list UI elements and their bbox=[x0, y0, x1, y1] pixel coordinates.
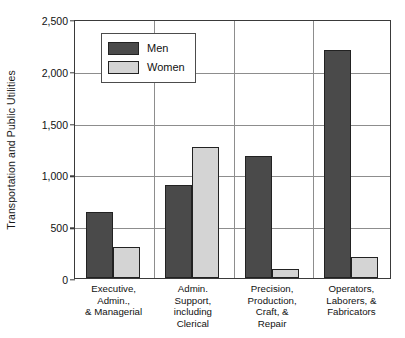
bar-men bbox=[245, 156, 272, 278]
x-axis-labels: Executive,Admin.,& ManagerialAdmin.Suppo… bbox=[74, 283, 391, 338]
x-axis-category-line: Production, bbox=[233, 295, 312, 307]
x-axis-category-line: & Managerial bbox=[74, 306, 153, 318]
x-axis-category-label: Admin.Support,includingClerical bbox=[153, 283, 232, 329]
x-axis-category-line: Operators, bbox=[312, 283, 391, 295]
legend-item-women: Women bbox=[108, 58, 185, 77]
y-axis-title-container: Transportation and Public Utilities bbox=[0, 0, 22, 300]
x-axis-category-line: Repair bbox=[233, 318, 312, 330]
legend-swatch-women-icon bbox=[108, 61, 139, 74]
x-axis-category-line: Laborers, & bbox=[312, 295, 391, 307]
bar-men bbox=[324, 50, 351, 278]
bar-women bbox=[272, 269, 299, 278]
x-axis-category-label: Executive,Admin.,& Managerial bbox=[74, 283, 153, 318]
bar-men bbox=[165, 185, 192, 278]
x-axis-category-line: including bbox=[153, 306, 232, 318]
x-axis-category-label: Operators,Laborers, &Fabricators bbox=[312, 283, 391, 318]
x-axis-category-line: Admin. bbox=[153, 283, 232, 295]
y-axis-tick-mark bbox=[70, 279, 75, 280]
bar-chart: Transportation and Public Utilities 0500… bbox=[0, 0, 405, 338]
bar-women bbox=[113, 247, 140, 278]
legend: Men Women bbox=[101, 33, 196, 83]
x-axis-category-line: Executive, bbox=[74, 283, 153, 295]
bar-men bbox=[86, 212, 113, 278]
bar-women bbox=[351, 257, 378, 278]
legend-item-men: Men bbox=[108, 39, 185, 58]
legend-swatch-men-icon bbox=[108, 42, 139, 55]
x-axis-category-line: Support, bbox=[153, 295, 232, 307]
x-axis-category-line: Craft, & bbox=[233, 306, 312, 318]
plot-area: 05001,0001,5002,0002,500 Men Women bbox=[74, 20, 391, 279]
x-axis-category-line: Clerical bbox=[153, 318, 232, 330]
y-axis-title: Transportation and Public Utilities bbox=[5, 70, 17, 230]
x-axis-category-label: Precision,Production,Craft, &Repair bbox=[233, 283, 312, 329]
legend-label-men: Men bbox=[147, 43, 168, 54]
bar-women bbox=[192, 147, 219, 278]
legend-label-women: Women bbox=[147, 62, 185, 73]
x-axis-category-line: Precision, bbox=[233, 283, 312, 295]
x-axis-category-line: Fabricators bbox=[312, 306, 391, 318]
x-axis-category-line: Admin., bbox=[74, 295, 153, 307]
